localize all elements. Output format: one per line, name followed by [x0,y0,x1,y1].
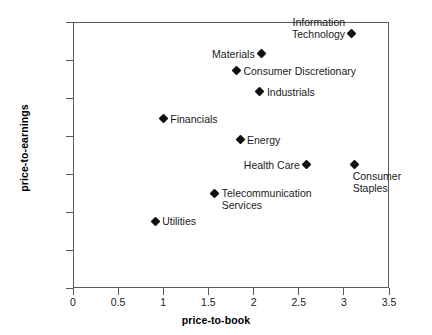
y-axis-title: price-to-earnings [18,78,30,218]
x-tick-label: 2 [234,297,274,308]
diamond-marker-icon [255,87,265,97]
diamond-marker-icon [302,160,312,170]
data-point-label: Utilities [162,215,196,227]
scatter-chart: 05101520253035 00.511.522.533.5 Informat… [0,0,432,335]
x-tick-mark [253,288,254,295]
x-tick-mark [73,288,74,295]
x-axis-title: price-to-book [0,314,432,326]
diamond-marker-icon [158,114,168,124]
data-point-label: Energy [247,134,280,146]
data-point-label: Materials [212,48,255,60]
x-tick-mark [389,288,390,295]
x-tick-mark [343,288,344,295]
x-tick-label: 3.5 [369,297,409,308]
x-tick-mark [163,288,164,295]
x-tick-label: 1 [143,297,183,308]
plot-area: Information TechnologyMaterialsConsumer … [73,22,389,288]
x-tick-label: 3 [324,297,364,308]
diamond-marker-icon [150,216,160,226]
diamond-marker-icon [346,28,356,38]
x-tick-mark [298,288,299,295]
diamond-marker-icon [235,135,245,145]
x-tick-label: 0.5 [98,297,138,308]
x-tick-mark [208,288,209,295]
data-point-label: Financials [170,113,217,125]
x-tick-mark [118,288,119,295]
data-point-label: Health Care [244,159,300,171]
data-point-label: Consumer Discretionary [243,65,356,77]
diamond-marker-icon [210,188,220,198]
x-tick-label: 2.5 [279,297,319,308]
x-tick-label: 0 [53,297,93,308]
data-point-label: Industrials [267,86,315,98]
data-point-label: Telecommunication Services [222,187,312,211]
diamond-marker-icon [350,160,360,170]
diamond-marker-icon [231,66,241,76]
data-point-label: Consumer Staples [353,170,401,194]
data-point-label: Information Technology [292,16,345,40]
x-tick-label: 1.5 [188,297,228,308]
diamond-marker-icon [257,49,267,59]
